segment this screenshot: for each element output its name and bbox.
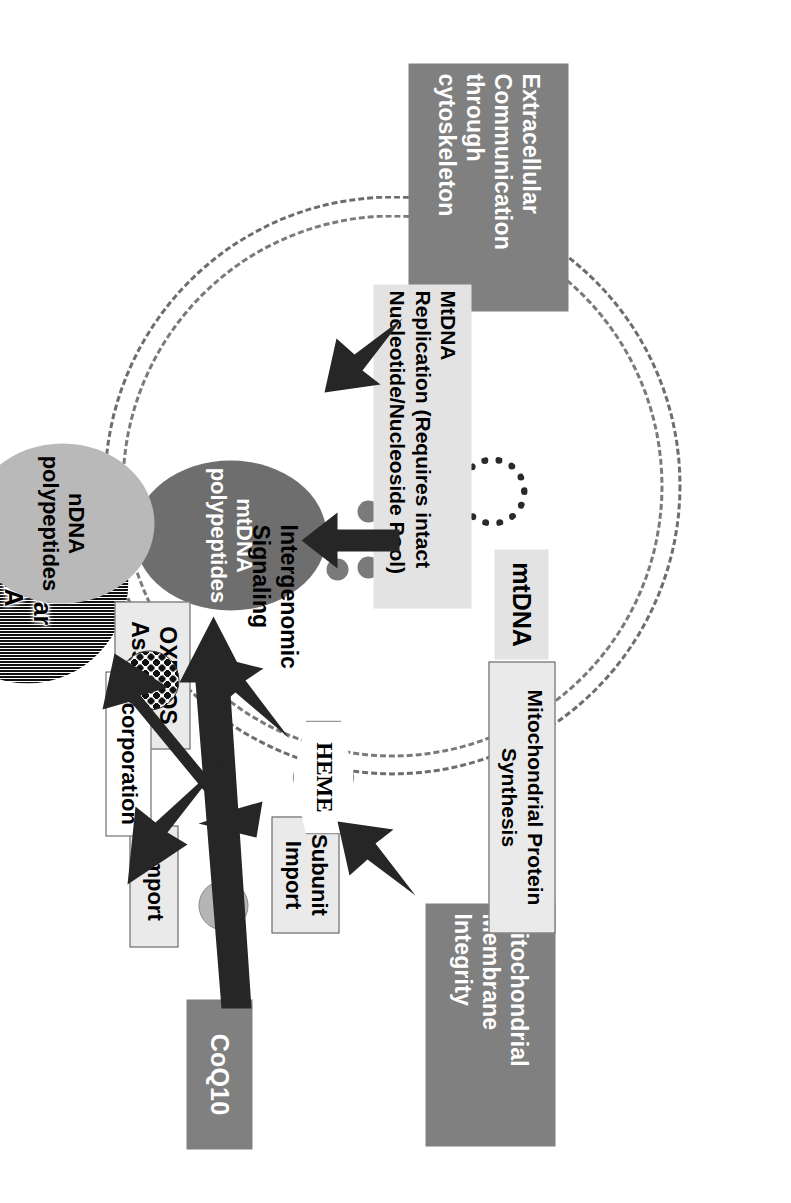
callout-extracellular-communication[interactable]: Extracellular Communication through cyto… [408,63,568,311]
callout-line: Communication [488,73,516,301]
label-line: Synthesis [496,747,521,846]
label-mtdna: mtDNA [494,549,548,659]
callout-line: through [460,73,488,301]
callout-line: CoQ10 [204,1033,235,1115]
callout-coq10[interactable]: CoQ10 [186,999,252,1149]
callout-line: Mitochondrial [504,913,532,1136]
label-line: mtDNA [506,562,536,647]
node-line: polypeptides [36,455,62,591]
diagram-canvas: Extracellular Communication through cyto… [0,0,791,1203]
node-line: nDNA [62,455,88,591]
node-line: polypeptides [204,467,230,603]
label-line: Subunit [305,834,331,916]
callout-line: Membrane [476,913,504,1136]
label-mitochondrial-protein-synthesis: Mitochondrial Protein Synthesis [488,661,555,933]
arrow-icon [301,510,399,570]
arrow-icon [123,760,231,888]
arrow-icon [318,318,408,413]
label-line: Import [279,840,305,908]
label-line: Mitochondrial Protein [522,689,547,905]
callout-line: Integrity [448,913,476,1136]
callout-line: cytoskeleton [432,73,460,301]
label-line: Replication (Requires intact [409,290,434,602]
arrow-icon [329,800,421,895]
callout-line: Extracellular [516,73,544,301]
callout-mitochondrial-membrane-integrity[interactable]: Mitochondrial Membrane Integrity [425,903,555,1146]
label-line: MtDNA [435,290,460,602]
